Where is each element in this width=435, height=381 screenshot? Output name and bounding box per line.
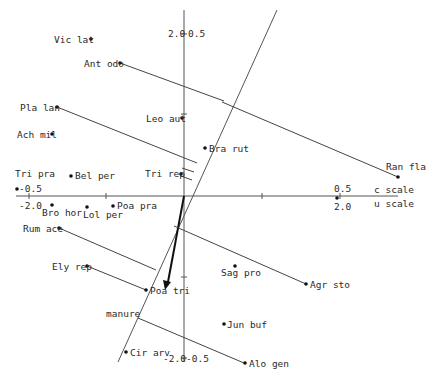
label-pla-lan: Pla lan [20, 102, 60, 113]
label-ely-rep: Ely rep [52, 261, 92, 272]
point-ran-fla [396, 175, 400, 179]
tick-label-right-c: 0.5 [334, 183, 351, 194]
point-alo-gen [243, 361, 247, 365]
point-bel-per [69, 174, 73, 178]
label-ach-mil: Ach mil [17, 129, 57, 140]
label-ran-fla: Ran fla [386, 161, 426, 172]
tick-label-left-c: -0.5 [19, 183, 42, 194]
tick-label-top-u: 2.0 [168, 28, 185, 39]
label-jun-buf: Jun buf [227, 319, 267, 330]
label-tri-rep: Tri rep [145, 168, 185, 179]
tick-label-right-u: 2.0 [334, 201, 351, 212]
point-bra-rut [203, 146, 207, 150]
manure-axis-line [118, 10, 277, 362]
u-scale-label: u scale [374, 198, 414, 209]
tick-label-top-c: 0.5 [188, 28, 205, 39]
label-rum-ace: Rum ace [23, 223, 63, 234]
label-bro-hor: Bro hor [42, 207, 82, 218]
label-ant-odo: Ant odo [84, 58, 124, 69]
biplot-svg: Vic lat Ant odo Pla lan Leo aut Ach mil … [0, 0, 435, 381]
tick-label-bottom-u: -2.0 [163, 353, 186, 364]
label-poa-tri: Poa tri [150, 285, 190, 296]
point-poa-tri [144, 288, 148, 292]
label-agr-sto: Agr sto [310, 279, 350, 290]
label-sag-pro: Sag pro [221, 267, 261, 278]
point-poa-pra [111, 204, 115, 208]
label-poa-pra: Poa pra [117, 200, 157, 211]
projection-ant-odo [120, 63, 224, 101]
point-u-scale-right [335, 196, 339, 200]
tick-label-left-u: -2.0 [19, 200, 42, 211]
tick-label-bottom-c: -0.5 [186, 353, 209, 364]
label-manure: manure [106, 308, 141, 319]
point-cir-arv [124, 350, 128, 354]
label-vic-lat: Vic lat [54, 34, 94, 45]
label-tri-pra: Tri pra [15, 168, 55, 179]
label-alo-gen: Alo gen [249, 358, 289, 369]
label-bra-rut: Bra rut [209, 143, 249, 154]
label-leo-aut: Leo aut [146, 113, 186, 124]
biplot-chart: Vic lat Ant odo Pla lan Leo aut Ach mil … [0, 0, 435, 381]
projection-ely-rep [87, 266, 146, 290]
point-jun-buf [222, 322, 226, 326]
manure-arrow [168, 196, 184, 282]
c-scale-label: c scale [374, 184, 414, 195]
point-agr-sto [304, 282, 308, 286]
label-bel-per: Bel per [75, 170, 115, 181]
projection-ran-fla [222, 102, 398, 177]
